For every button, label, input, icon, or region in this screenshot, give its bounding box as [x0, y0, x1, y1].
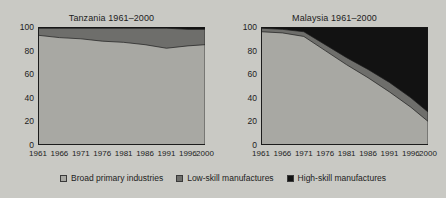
legend-swatch-broad-primary-industries [60, 175, 67, 182]
legend-item-label: Broad primary industries [71, 173, 163, 183]
x-axis-tick-label: 1971 [295, 149, 313, 158]
chart-panel-malaysia: Malaysia 1961–2000 020406080100196119661… [223, 0, 446, 170]
x-axis-tick-label: 1966 [51, 149, 69, 158]
y-axis-tick-label: 40 [248, 93, 257, 103]
plot-svg [38, 27, 205, 145]
legend-item-label: Low-skill manufactures [187, 173, 273, 183]
x-axis-tick-label: 1976 [93, 149, 111, 158]
y-axis-tick-label: 100 [243, 22, 257, 32]
plot-svg [261, 27, 428, 145]
x-axis-tick-label: 2000 [419, 149, 437, 158]
area-series-broad-primary-industries [38, 35, 205, 145]
legend-item: High-skill manufactures [287, 173, 386, 183]
x-axis-tick-label: 1996 [179, 149, 197, 158]
y-axis-tick-label: 80 [25, 46, 34, 56]
legend-item: Low-skill manufactures [176, 173, 273, 183]
plot-area-malaysia: 0204060801001961196619711976198119861991… [261, 27, 428, 145]
legend-item-label: High-skill manufactures [298, 173, 386, 183]
legend-item: Broad primary industries [60, 173, 163, 183]
x-axis-tick-label: 1981 [338, 149, 356, 158]
x-axis-tick-label: 1971 [72, 149, 90, 158]
chart-legend: Broad primary industriesLow-skill manufa… [0, 173, 446, 183]
x-axis-tick-label: 1961 [29, 149, 47, 158]
x-axis-tick-label: 1966 [274, 149, 292, 158]
figure-stacked-area-charts: Tanzania 1961–2000 020406080100196119661… [0, 0, 446, 198]
x-axis-tick-label: 1976 [316, 149, 334, 158]
y-axis-tick-label: 80 [248, 46, 257, 56]
legend-swatch-low-skill-manufactures [176, 175, 183, 182]
y-axis-tick-label: 60 [25, 69, 34, 79]
x-axis-tick-label: 1961 [252, 149, 270, 158]
y-axis-tick-label: 20 [248, 116, 257, 126]
x-axis-tick-label: 1981 [115, 149, 133, 158]
x-axis-tick-label: 2000 [196, 149, 214, 158]
x-axis-tick-label: 1986 [359, 149, 377, 158]
x-axis-tick-label: 1991 [381, 149, 399, 158]
legend-swatch-high-skill-manufactures [287, 175, 294, 182]
y-axis-tick-label: 40 [25, 93, 34, 103]
chart-panel-tanzania: Tanzania 1961–2000 020406080100196119661… [0, 0, 223, 170]
x-axis-tick-label: 1986 [136, 149, 154, 158]
x-axis-tick-label: 1991 [158, 149, 176, 158]
y-axis-tick-label: 60 [248, 69, 257, 79]
plot-area-tanzania: 0204060801001961196619711976198119861991… [38, 27, 205, 145]
y-axis-tick-label: 20 [25, 116, 34, 126]
y-axis-tick-label: 100 [20, 22, 34, 32]
x-axis-tick-label: 1996 [402, 149, 420, 158]
